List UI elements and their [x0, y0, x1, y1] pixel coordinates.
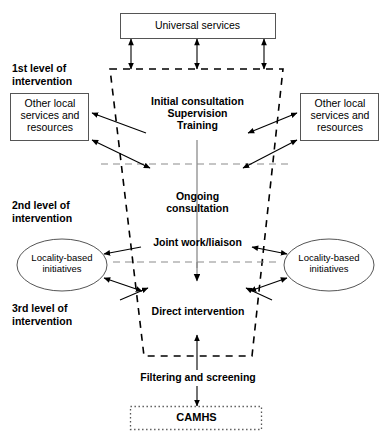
locality-left-label: Locality-based initiatives [18, 253, 106, 275]
arrow-level2-right-outbound [250, 278, 287, 291]
arrow-level2-right-inbound [252, 247, 287, 254]
diagram-canvas: Universal services 1st level of interven… [0, 0, 390, 443]
level-2-label: 2nd level of intervention [12, 199, 112, 225]
other-local-right-label: Other local services and resources [301, 97, 379, 133]
stage-initial-label: Initial consultation Supervision Trainin… [120, 95, 275, 131]
stage-direct-label: Direct intervention [134, 305, 262, 317]
other-local-left-label: Other local services and resources [11, 97, 89, 133]
filtering-screening-label: Filtering and screening [114, 371, 282, 383]
arrow-level2-left-inbound [104, 247, 141, 254]
stage-ongoing-label: Ongoing consultation [140, 190, 255, 214]
locality-right-label: Locality-based initiatives [285, 253, 373, 275]
arrow-level1-left-outbound [92, 140, 150, 168]
camhs-label: CAMHS [131, 411, 262, 424]
stage-joint-label: Joint work/liaison [140, 236, 255, 248]
level-1-label: 1st level of intervention [12, 62, 112, 88]
arrow-level3-left-up [120, 288, 148, 300]
universal-services-label: Universal services [120, 19, 275, 31]
level-3-label: 3rd level of intervention [12, 302, 112, 328]
